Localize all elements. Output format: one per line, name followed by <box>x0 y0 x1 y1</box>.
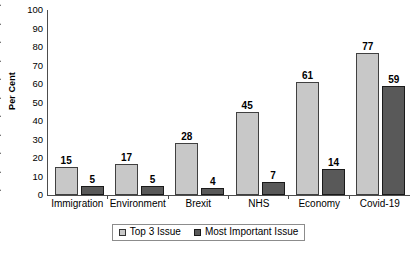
y-tick-mark <box>0 60 1 61</box>
bar-group-bars: 155 <box>48 10 108 195</box>
legend-item[interactable]: Most Important Issue <box>194 227 298 237</box>
x-tick-label: Brexit <box>168 198 229 209</box>
bar[interactable]: 4 <box>201 188 224 195</box>
bar[interactable]: 17 <box>115 164 138 195</box>
bar[interactable]: 59 <box>382 86 405 195</box>
bar-group-bars: 457 <box>229 10 289 195</box>
bar-group: 155 <box>48 10 108 195</box>
y-tick-mark <box>0 153 1 154</box>
legend-swatch-icon <box>119 229 126 236</box>
bar-groups: 15517528445761147759 <box>48 10 410 195</box>
y-tick-label: 70 <box>1 61 48 71</box>
y-tick-mark <box>0 134 1 135</box>
x-tick-label: Economy <box>289 198 350 209</box>
bar-value-label: 5 <box>150 175 156 185</box>
y-tick-label: 80 <box>1 42 48 52</box>
legend-item-label: Most Important Issue <box>205 227 298 237</box>
y-tick-label: 50 <box>1 98 48 108</box>
bar-value-label: 5 <box>89 175 95 185</box>
x-axis-labels: ImmigrationEnvironmentBrexitNHSEconomyCo… <box>47 198 410 209</box>
bar-group: 457 <box>229 10 289 195</box>
plot-area: 1009080706050403020100 15517528445761147… <box>47 10 410 196</box>
bar[interactable]: 7 <box>262 182 285 195</box>
y-tick-mark <box>0 190 1 191</box>
bar-group-bars: 175 <box>108 10 168 195</box>
y-tick-label: 40 <box>1 116 48 126</box>
bar-group: 175 <box>108 10 168 195</box>
legend-box: Top 3 IssueMost Important Issue <box>112 224 306 241</box>
x-tick-label: Immigration <box>47 198 108 209</box>
y-tick-label: 30 <box>1 135 48 145</box>
bar-value-label: 4 <box>210 177 216 187</box>
bar-group-bars: 7759 <box>350 10 410 195</box>
y-tick-label: 20 <box>1 153 48 163</box>
bar-value-label: 45 <box>242 101 253 111</box>
bar-value-label: 61 <box>302 71 313 81</box>
bar-value-label: 17 <box>121 153 132 163</box>
bar[interactable]: 77 <box>356 53 379 195</box>
y-tick-mark <box>0 171 1 172</box>
y-tick-mark <box>0 97 1 98</box>
bar[interactable]: 61 <box>296 82 319 195</box>
bar-group-bars: 6114 <box>289 10 349 195</box>
legend-swatch-icon <box>194 229 201 236</box>
bar[interactable]: 5 <box>81 186 104 195</box>
bar-value-label: 14 <box>328 158 339 168</box>
bar-group: 6114 <box>289 10 349 195</box>
legend: Top 3 IssueMost Important Issue <box>0 224 417 241</box>
bar-value-label: 59 <box>388 75 399 85</box>
x-tick-label: NHS <box>229 198 290 209</box>
bar-value-label: 77 <box>362 42 373 52</box>
bar[interactable]: 28 <box>175 143 198 195</box>
legend-item-label: Top 3 Issue <box>130 227 181 237</box>
bar-value-label: 7 <box>270 171 276 181</box>
y-tick-mark <box>0 42 1 43</box>
bar[interactable]: 5 <box>141 186 164 195</box>
x-tick-label: Environment <box>108 198 169 209</box>
y-tick-mark <box>0 79 1 80</box>
bar-value-label: 15 <box>61 156 72 166</box>
bar-group-bars: 284 <box>169 10 229 195</box>
bar-group: 284 <box>169 10 229 195</box>
y-tick-label: 90 <box>1 24 48 34</box>
bar-group: 7759 <box>350 10 410 195</box>
y-tick-label: 0 <box>1 190 48 200</box>
bar[interactable]: 45 <box>236 112 259 195</box>
y-tick-label: 10 <box>1 172 48 182</box>
bar[interactable]: 15 <box>55 167 78 195</box>
y-tick-mark <box>0 5 1 6</box>
bar[interactable]: 14 <box>322 169 345 195</box>
bar-chart: Per Cent 1009080706050403020100 15517528… <box>0 0 417 254</box>
y-tick-label: 60 <box>1 79 48 89</box>
legend-item[interactable]: Top 3 Issue <box>119 227 181 237</box>
bar-value-label: 28 <box>181 132 192 142</box>
y-tick-label: 100 <box>1 5 48 15</box>
x-tick-label: Covid-19 <box>350 198 411 209</box>
y-tick-mark <box>0 23 1 24</box>
y-tick-mark <box>0 116 1 117</box>
